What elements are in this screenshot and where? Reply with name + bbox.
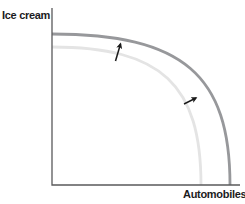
inner-frontier-curve [52,47,201,185]
y-axis-label: Ice cream [2,9,50,22]
x-axis-label: Automobiles [183,188,245,201]
outer-frontier-curve [52,34,230,185]
chart-canvas [0,0,245,204]
ppf-growth-figure: Ice cream Automobiles [0,0,245,204]
